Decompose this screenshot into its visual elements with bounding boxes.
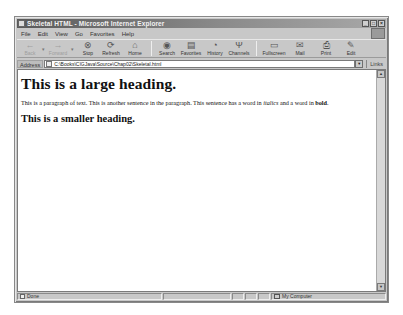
ie-app-icon[interactable] <box>18 20 25 27</box>
search-label: Search <box>159 50 175 56</box>
large-heading: This is a large heading. <box>21 75 373 93</box>
minimize-button[interactable]: _ <box>362 20 369 27</box>
search-icon: ◉ <box>163 40 171 50</box>
home-label: Home <box>128 50 141 56</box>
page-status-icon <box>20 294 25 299</box>
home-button[interactable]: ⌂ Home <box>123 39 147 57</box>
smaller-heading: This is a smaller heading. <box>21 113 373 125</box>
refresh-button[interactable]: ⟳ Refresh <box>99 39 123 57</box>
page-icon <box>46 61 52 67</box>
links-button[interactable]: Links <box>366 60 386 68</box>
favorites-button[interactable]: ▤ Favorites <box>178 39 204 57</box>
menu-view[interactable]: View <box>55 31 68 37</box>
history-button[interactable]: ◔ History <box>204 39 226 57</box>
channels-icon: Ψ <box>235 40 243 50</box>
stop-icon: ⊗ <box>84 40 92 50</box>
document-body: This is a large heading. This is a parag… <box>21 75 373 125</box>
edit-button[interactable]: ✎ Edit <box>339 39 363 57</box>
status-panel <box>245 293 257 300</box>
back-label: Back <box>24 50 35 56</box>
status-text: Done <box>27 293 39 299</box>
back-button[interactable]: ← Back <box>21 39 39 57</box>
address-label: Address <box>17 60 43 68</box>
channels-label: Channels <box>228 50 249 56</box>
menu-help[interactable]: Help <box>122 31 134 37</box>
browser-window: Skeletal HTML - Microsoft Internet Explo… <box>14 16 389 303</box>
edit-icon: ✎ <box>347 40 355 50</box>
fullscreen-icon: ▭ <box>270 40 279 50</box>
toolbar-separator <box>151 41 152 56</box>
print-label: Print <box>321 50 331 56</box>
scroll-up-button[interactable]: ▲ <box>377 70 385 78</box>
menu-go[interactable]: Go <box>75 31 83 37</box>
back-history-dropdown[interactable]: ▾ <box>42 46 45 52</box>
fullscreen-button[interactable]: ▭ Fullscreen <box>261 39 287 57</box>
status-panel <box>258 293 270 300</box>
menu-favorites[interactable]: Favorites <box>90 31 115 37</box>
home-icon: ⌂ <box>132 40 137 50</box>
menu-bar: File Edit View Go Favorites Help <box>17 29 386 38</box>
italic-word: italics <box>263 99 278 106</box>
menu-file[interactable]: File <box>21 31 31 37</box>
security-zone-panel: My Computer <box>271 293 386 300</box>
address-bar: Address C:\Books\CIGJava\Source\Chap02\S… <box>17 59 386 68</box>
computer-icon <box>274 294 280 299</box>
channels-button[interactable]: Ψ Channels <box>226 39 252 57</box>
edit-label: Edit <box>347 50 356 56</box>
zone-text: My Computer <box>282 293 312 299</box>
maximize-button[interactable]: □ <box>370 20 377 27</box>
paragraph-text: This is a paragraph of text. This is ano… <box>21 99 263 106</box>
status-panel <box>232 293 244 300</box>
forward-label: Forward <box>49 50 67 56</box>
close-button[interactable]: × <box>378 20 385 27</box>
page-content: This is a large heading. This is a parag… <box>17 69 386 292</box>
status-progress-panel <box>163 293 231 300</box>
fullscreen-label: Fullscreen <box>262 50 285 56</box>
ie-logo-throbber-icon <box>371 28 385 39</box>
refresh-label: Refresh <box>102 50 120 56</box>
refresh-icon: ⟳ <box>107 40 115 50</box>
search-button[interactable]: ◉ Search <box>156 39 178 57</box>
stop-button[interactable]: ⊗ Stop <box>77 39 99 57</box>
toolbar-separator <box>256 41 257 56</box>
mail-label: Mail <box>295 50 304 56</box>
paragraph-text-middle: and a word in <box>278 99 315 106</box>
bold-word: bold <box>315 99 327 106</box>
forward-history-dropdown[interactable]: ▾ <box>71 46 74 52</box>
status-bar: Done My Computer <box>17 292 386 300</box>
favorites-label: Favorites <box>181 50 202 56</box>
history-icon: ◔ <box>212 40 217 50</box>
standard-toolbar: ← Back ▾ → Forward ▾ ⊗ Stop ⟳ Refresh ⌂ … <box>17 39 386 58</box>
history-label: History <box>207 50 223 56</box>
address-dropdown-button[interactable]: ▼ <box>355 60 363 68</box>
scroll-down-button[interactable]: ▼ <box>377 283 385 291</box>
paragraph: This is a paragraph of text. This is ano… <box>21 99 373 107</box>
forward-button[interactable]: → Forward <box>48 39 68 57</box>
window-controls: _ □ × <box>362 20 385 27</box>
window-title: Skeletal HTML - Microsoft Internet Explo… <box>27 19 362 28</box>
mail-icon: ✉ <box>296 40 304 50</box>
title-bar[interactable]: Skeletal HTML - Microsoft Internet Explo… <box>17 19 386 28</box>
stop-label: Stop <box>83 50 93 56</box>
address-input[interactable]: C:\Books\CIGJava\Source\Chap02\Skeletal.… <box>44 60 355 68</box>
forward-arrow-icon: → <box>54 40 63 50</box>
print-icon: ⎙ <box>323 40 330 50</box>
favorites-icon: ▤ <box>187 40 196 50</box>
back-arrow-icon: ← <box>26 40 35 50</box>
address-url: C:\Books\CIGJava\Source\Chap02\Skeletal.… <box>54 61 161 67</box>
menu-edit[interactable]: Edit <box>38 31 48 37</box>
paragraph-text-end: . <box>327 99 329 106</box>
mail-button[interactable]: ✉ Mail <box>287 39 313 57</box>
vertical-scrollbar[interactable]: ▲ ▼ <box>376 70 385 291</box>
print-button[interactable]: ⎙ Print <box>313 39 339 57</box>
status-main-panel: Done <box>17 293 162 300</box>
